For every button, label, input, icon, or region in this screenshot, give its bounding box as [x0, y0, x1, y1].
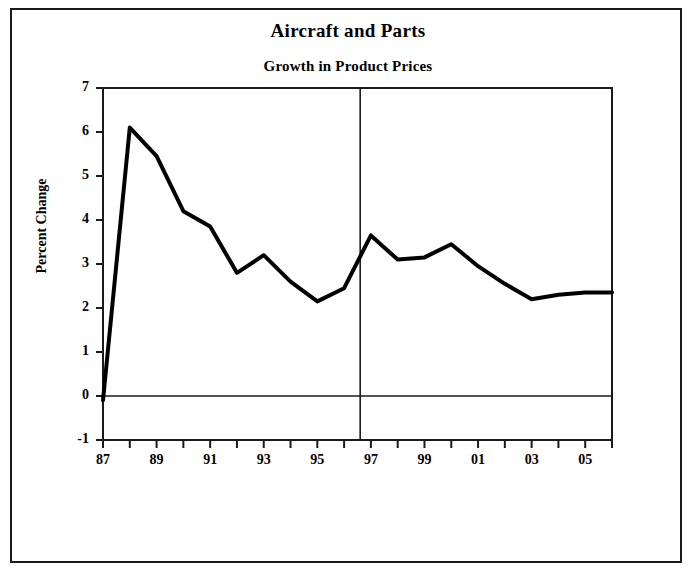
chart-figure: Aircraft and Parts Growth in Product Pri… — [0, 0, 696, 579]
data-series — [103, 128, 612, 401]
x-tick-label: 87 — [83, 452, 123, 468]
x-tick-label: 97 — [351, 452, 391, 468]
x-tick-label: 95 — [297, 452, 337, 468]
y-tick-label: 5 — [61, 167, 89, 183]
y-tick-label: -1 — [61, 431, 89, 447]
x-tick-label: 01 — [458, 452, 498, 468]
x-tick-label: 99 — [404, 452, 444, 468]
x-tick-label: 03 — [512, 452, 552, 468]
y-tick-label: 4 — [61, 211, 89, 227]
y-tick-label: 1 — [61, 343, 89, 359]
x-tick-label: 93 — [244, 452, 284, 468]
x-tick-label: 91 — [190, 452, 230, 468]
y-tick-label: 6 — [61, 123, 89, 139]
x-tick-label: 05 — [565, 452, 605, 468]
y-tick-label: 0 — [61, 387, 89, 403]
plot-area — [0, 0, 696, 579]
y-tick-label: 3 — [61, 255, 89, 271]
x-tick-label: 89 — [137, 452, 177, 468]
y-tick-label: 7 — [61, 79, 89, 95]
y-tick-label: 2 — [61, 299, 89, 315]
